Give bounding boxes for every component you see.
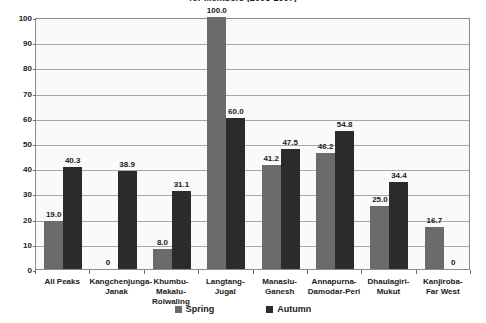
y-tick-label: 0: [2, 267, 32, 275]
bar-spring[interactable]: 16.7: [425, 227, 444, 269]
x-tick-mark: [35, 270, 36, 274]
bar-autumn[interactable]: 54.8: [335, 131, 354, 269]
bar-group: 100.060.0: [199, 19, 253, 269]
y-tick-label: 100: [2, 15, 32, 23]
bar-value-label: 19.0: [46, 211, 62, 219]
bar-autumn[interactable]: 40.3: [63, 167, 82, 269]
y-tick-label: 30: [2, 191, 32, 199]
bar-value-label: 40.3: [65, 157, 81, 165]
legend-swatch-icon: [266, 306, 273, 313]
bar-group: 46.254.8: [308, 19, 362, 269]
legend-item-autumn[interactable]: Autumn: [266, 305, 311, 314]
chart-legend: SpringAutumn: [0, 305, 486, 314]
bar-spring[interactable]: 100.0: [207, 17, 226, 269]
x-tick-mark: [253, 270, 254, 274]
x-category-label: All Peaks: [35, 277, 89, 287]
bar-value-label: 34.4: [391, 172, 407, 180]
x-tick-mark: [89, 270, 90, 274]
bar-group: 41.247.5: [254, 19, 308, 269]
y-tick-label: 40: [2, 166, 32, 174]
x-tick-mark: [198, 270, 199, 274]
bar-value-label: 0: [106, 259, 110, 267]
x-category-label: Annapurna-Damodar-Peri: [307, 277, 361, 297]
bars-layer: 19.040.3038.98.031.1100.060.041.247.546.…: [36, 19, 469, 269]
bar-value-label: 41.2: [263, 155, 279, 163]
bar-value-label: 25.0: [372, 196, 388, 204]
y-tick-label: 60: [2, 116, 32, 124]
x-category-label: Langtang-Jugal: [198, 277, 252, 297]
bar-autumn[interactable]: 34.4: [389, 182, 408, 269]
bar-autumn[interactable]: 60.0: [226, 118, 245, 269]
x-tick-mark: [144, 270, 145, 274]
y-tick-label: 80: [2, 65, 32, 73]
bar-value-label: 54.8: [337, 121, 353, 129]
x-tick-mark: [470, 270, 471, 274]
bar-value-label: 46.2: [318, 143, 334, 151]
x-tick-mark: [416, 270, 417, 274]
x-category-label: Manaslu-Ganesh: [253, 277, 307, 297]
bar-value-label: 0: [451, 259, 455, 267]
legend-label: Autumn: [277, 305, 311, 314]
y-tick-label: 20: [2, 217, 32, 225]
bar-autumn[interactable]: 47.5: [281, 149, 300, 269]
bar-value-label: 8.0: [157, 239, 168, 247]
x-tick-mark: [307, 270, 308, 274]
bar-value-label: 16.7: [427, 217, 443, 225]
bar-spring[interactable]: 46.2: [316, 153, 335, 269]
y-tick-label: 50: [2, 141, 32, 149]
bar-spring[interactable]: 41.2: [262, 165, 281, 269]
bar-spring[interactable]: 19.0: [44, 221, 63, 269]
bar-value-label: 100.0: [207, 7, 227, 15]
bar-group: 038.9: [90, 19, 144, 269]
plot-area: 0102030405060708090100 19.040.3038.98.03…: [35, 18, 470, 270]
legend-label: Spring: [186, 305, 215, 314]
y-tick-label: 90: [2, 40, 32, 48]
bar-group: 25.034.4: [362, 19, 416, 269]
bar-value-label: 47.5: [282, 139, 298, 147]
x-category-label: Kangchenjunga-Janak: [89, 277, 143, 297]
bar-value-label: 31.1: [174, 181, 190, 189]
x-category-label: Kanjiroba-Far West: [416, 277, 470, 297]
x-category-label: Dhaulagiri-Mukut: [361, 277, 415, 297]
legend-item-spring[interactable]: Spring: [175, 305, 215, 314]
bar-chart: for Members (2003-2007) 0102030405060708…: [0, 0, 486, 323]
y-tick-label: 70: [2, 91, 32, 99]
bar-autumn[interactable]: 38.9: [118, 171, 137, 269]
bar-autumn[interactable]: 31.1: [172, 191, 191, 269]
bar-value-label: 38.9: [119, 161, 135, 169]
bar-spring[interactable]: 8.0: [153, 249, 172, 269]
bar-group: 19.040.3: [36, 19, 90, 269]
legend-swatch-icon: [175, 306, 182, 313]
bar-value-label: 60.0: [228, 108, 244, 116]
x-tick-mark: [361, 270, 362, 274]
bar-group: 8.031.1: [145, 19, 199, 269]
x-category-label: Khumbu-Makalu-Rolwaling: [144, 277, 198, 307]
bar-spring[interactable]: 25.0: [370, 206, 389, 269]
chart-title: for Members (2003-2007): [0, 0, 486, 2]
y-tick-label: 10: [2, 242, 32, 250]
bar-group: 16.70: [417, 19, 471, 269]
